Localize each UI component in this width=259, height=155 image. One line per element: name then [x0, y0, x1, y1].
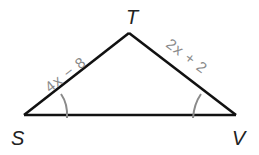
triangle-diagram: 4x − 8 2x + 2 T S V — [0, 0, 259, 155]
side-label-tv: 2x + 2 — [163, 35, 211, 77]
vertex-label-s: S — [11, 127, 25, 149]
vertex-label-v: V — [232, 127, 247, 149]
vertex-label-t: T — [126, 6, 140, 28]
side-label-st: 4x − 8 — [41, 53, 89, 96]
